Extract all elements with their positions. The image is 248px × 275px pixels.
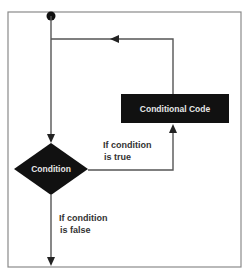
false-branch-label-line2: is false (60, 225, 91, 235)
flow-loop-back (51, 39, 173, 94)
flow-true-branch (88, 132, 173, 170)
condition-label: Condition (31, 164, 71, 174)
conditional-code-node: Conditional Code (121, 94, 229, 123)
true-branch-label-line1: If condition (103, 140, 152, 150)
arrowhead-into-conditional-code (169, 124, 177, 133)
arrowhead-into-condition (47, 134, 55, 143)
false-branch-label-line1: If condition (59, 213, 108, 223)
arrowhead-loop-back (110, 35, 119, 43)
arrowhead-false-exit (47, 257, 55, 266)
condition-node: Condition (14, 143, 88, 195)
flowchart-diagram: Conditional Code Condition If condition … (0, 0, 248, 275)
true-branch-label-line2: is true (104, 152, 131, 162)
conditional-code-label: Conditional Code (140, 104, 211, 114)
